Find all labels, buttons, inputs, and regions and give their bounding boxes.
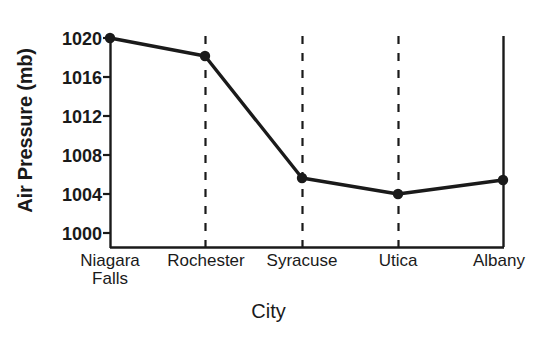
x-axis-title-text: City (251, 300, 285, 323)
air-pressure-line-chart: Air Pressure (mb) 1020 1016 1012 1008 10… (0, 0, 545, 346)
category-gridlines (206, 36, 399, 247)
data-markers (105, 33, 508, 199)
plot-area (0, 0, 545, 346)
y-axis-ticks (103, 38, 110, 233)
x-tick-label-syracuse: Syracuse (254, 252, 350, 270)
data-point-syracuse (297, 173, 307, 183)
data-point-niagara-falls (105, 33, 115, 43)
data-point-utica (393, 189, 403, 199)
data-point-rochester (200, 51, 210, 61)
x-tick-label-rochester: Rochester (158, 252, 254, 270)
x-tick-label-utica: Utica (352, 252, 444, 270)
x-tick-label-niagara-falls: Niagara Falls (62, 252, 158, 288)
x-tick-label-albany: Albany (455, 252, 543, 270)
data-line-air-pressure (110, 38, 503, 194)
x-axis-title: City (0, 300, 545, 323)
data-point-albany (498, 175, 508, 185)
